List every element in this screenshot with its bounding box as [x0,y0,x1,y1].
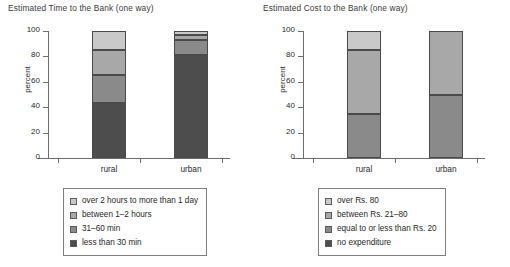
stacked-bar [92,31,126,158]
stacked-bar [347,31,381,158]
x-axis-category-label: rural [79,164,139,174]
chart-title-time: Estimated Time to the Bank (one way) [8,3,154,13]
legend-swatch-icon [325,212,332,219]
legend-item: no expenditure [325,236,437,250]
y-axis-tick: 100 [43,31,48,32]
bar-segment [429,31,463,95]
legend-item-label: between 1–2 hours [82,211,152,219]
bar-segment [174,55,208,158]
bar-segment [174,35,208,40]
stacked-bar-figure: Estimated Time to the Bank (one way) per… [0,0,510,267]
y-axis-tick-label: 60 [269,76,295,85]
chart-panel-time: Estimated Time to the Bank (one way) per… [0,0,255,267]
bar-segment [429,95,463,159]
legend-swatch-icon [70,198,77,205]
bar-segment [347,114,381,158]
y-axis-line [303,31,304,158]
bar-segment [92,50,126,75]
x-axis-category-label: rural [334,164,394,174]
x-axis-tick [395,158,396,163]
plot-area-time: percent 020406080100 ruralurban [48,31,230,158]
x-axis-tick [222,158,223,163]
y-axis-tick-label: 80 [14,50,40,59]
plot-area-cost: percent 020406080100 ruralurban [303,31,485,158]
y-axis-tick: 60 [298,82,303,83]
legend-item: between 1–2 hours [70,208,198,222]
x-axis-line [38,158,230,159]
x-axis-line [293,158,485,159]
legend-item-label: between Rs. 21–80 [337,211,408,219]
legend-swatch-icon [70,240,77,247]
y-axis-tick: 0 [298,158,303,159]
x-axis-tick [140,158,141,163]
legend-item: over 2 hours to more than 1 day [70,194,198,208]
x-axis-tick [313,158,314,163]
y-axis-tick-label: 40 [269,101,295,110]
y-axis-tick: 60 [43,82,48,83]
y-axis-tick-label: 0 [14,152,40,161]
legend-item: over Rs. 80 [325,194,437,208]
bar-segment [347,50,381,114]
x-axis-tick [477,158,478,163]
bar-segment [174,31,208,35]
y-axis-line [48,31,49,158]
y-axis-tick: 100 [298,31,303,32]
y-axis-tick-label: 20 [14,127,40,136]
legend-swatch-icon [325,240,332,247]
stacked-bar [429,31,463,158]
legend-item-label: no expenditure [337,239,391,247]
y-axis-tick: 20 [43,133,48,134]
legend-swatch-icon [325,198,332,205]
legend-item-label: 31–60 min [82,225,120,233]
y-axis-tick: 0 [43,158,48,159]
x-axis-category-label: urban [161,164,221,174]
y-axis-tick-label: 0 [269,152,295,161]
y-axis-tick-label: 60 [14,76,40,85]
legend-swatch-icon [70,226,77,233]
stacked-bar [174,31,208,158]
bar-segment [92,103,126,158]
y-axis-tick-label: 80 [269,50,295,59]
bar-segment [92,31,126,50]
y-axis-tick-label: 20 [269,127,295,136]
legend-item-label: equal to or less than Rs. 20 [337,225,437,233]
legend-item: less than 30 min [70,236,198,250]
bar-segment [92,75,126,103]
legend-time: over 2 hours to more than 1 daybetween 1… [63,188,207,256]
y-axis-tick: 80 [43,56,48,57]
bar-segment [347,31,381,50]
y-axis-tick: 40 [43,107,48,108]
legend-item-label: less than 30 min [82,239,142,247]
y-axis-tick-label: 100 [269,25,295,34]
legend-item: equal to or less than Rs. 20 [325,222,437,236]
legend-item: 31–60 min [70,222,198,236]
bar-segment [174,40,208,55]
legend-item-label: over 2 hours to more than 1 day [82,197,198,205]
x-axis-category-label: urban [416,164,476,174]
x-axis-tick [58,158,59,163]
y-axis-tick-label: 40 [14,101,40,110]
y-axis-tick: 80 [298,56,303,57]
y-axis-tick-label: 100 [14,25,40,34]
chart-panel-cost: Estimated Cost to the Bank (one way) per… [255,0,510,267]
y-axis-tick: 20 [298,133,303,134]
legend-swatch-icon [325,226,332,233]
legend-item: between Rs. 21–80 [325,208,437,222]
legend-item-label: over Rs. 80 [337,197,379,205]
legend-cost: over Rs. 80between Rs. 21–80equal to or … [318,188,446,256]
y-axis-tick: 40 [298,107,303,108]
legend-swatch-icon [70,212,77,219]
chart-title-cost: Estimated Cost to the Bank (one way) [263,3,408,13]
